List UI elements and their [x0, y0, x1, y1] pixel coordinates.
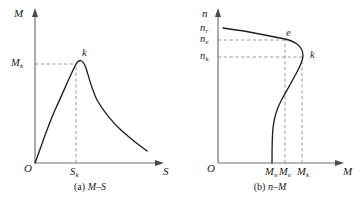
x-axis-label-a: S [163, 166, 169, 177]
y-tick-label-nk-sub: k [206, 55, 209, 63]
y-tick-label-mk-sub: k [20, 62, 23, 70]
caption-b-math: n–M [268, 181, 286, 192]
point-label-e-b: e [286, 28, 291, 39]
y-tick-label-mk-base: M [11, 57, 20, 68]
curve-n-m [223, 28, 303, 163]
x-tick-label-me: Me [279, 167, 291, 178]
caption-a-math: M–S [88, 181, 106, 192]
curve-m-s [35, 61, 147, 163]
x-tick-label-mk-sub: k [306, 171, 309, 179]
x-tick-label-mk-base: M [297, 166, 306, 177]
y-tick-label-mk: Mk [11, 58, 23, 69]
chart-panel-m-s: M S O Mk Sk k (a) M–S [0, 0, 180, 199]
x-tick-label-me-sub: e [288, 171, 291, 179]
x-tick-label-mk: Mk [297, 167, 309, 178]
y-axis-label-b: n [202, 8, 208, 19]
y-tick-label-ne-base: n [200, 33, 205, 44]
x-tick-label-mn: Mn [265, 167, 277, 178]
figure-pair: M S O Mk Sk k (a) M–S n M O [0, 0, 360, 199]
caption-b-prefix: (b) [254, 181, 266, 192]
point-label-k-a: k [82, 48, 87, 59]
x-tick-label-sk-sub: k [76, 171, 79, 179]
chart-panel-n-m: n M O nr ne nk Mn Me Mk e k (b) n–M [180, 0, 360, 199]
x-tick-label-mn-sub: n [274, 171, 278, 179]
y-axis-label-a: M [14, 8, 23, 19]
point-label-k-b: k [310, 50, 315, 61]
caption-a: (a) M–S [0, 181, 180, 192]
x-tick-label-sk-base: S [70, 166, 75, 177]
x-axis-label-b: M [343, 166, 352, 177]
origin-label-b: O [207, 163, 215, 174]
x-tick-label-sk: Sk [70, 167, 78, 178]
y-tick-label-nr: nr [200, 23, 208, 34]
y-tick-label-ne-sub: e [206, 38, 209, 46]
origin-label-a: O [24, 163, 32, 174]
x-tick-label-mn-base: M [265, 166, 274, 177]
y-tick-label-ne: ne [200, 34, 208, 45]
y-axis-arrow-b [215, 8, 221, 17]
x-tick-label-me-base: M [279, 166, 288, 177]
caption-a-prefix: (a) [74, 181, 85, 192]
y-tick-label-nk: nk [200, 51, 208, 62]
y-axis-arrow-a [32, 8, 38, 17]
caption-b: (b) n–M [180, 181, 360, 192]
y-tick-label-nk-base: n [200, 50, 205, 61]
y-tick-label-nr-base: n [200, 22, 205, 33]
